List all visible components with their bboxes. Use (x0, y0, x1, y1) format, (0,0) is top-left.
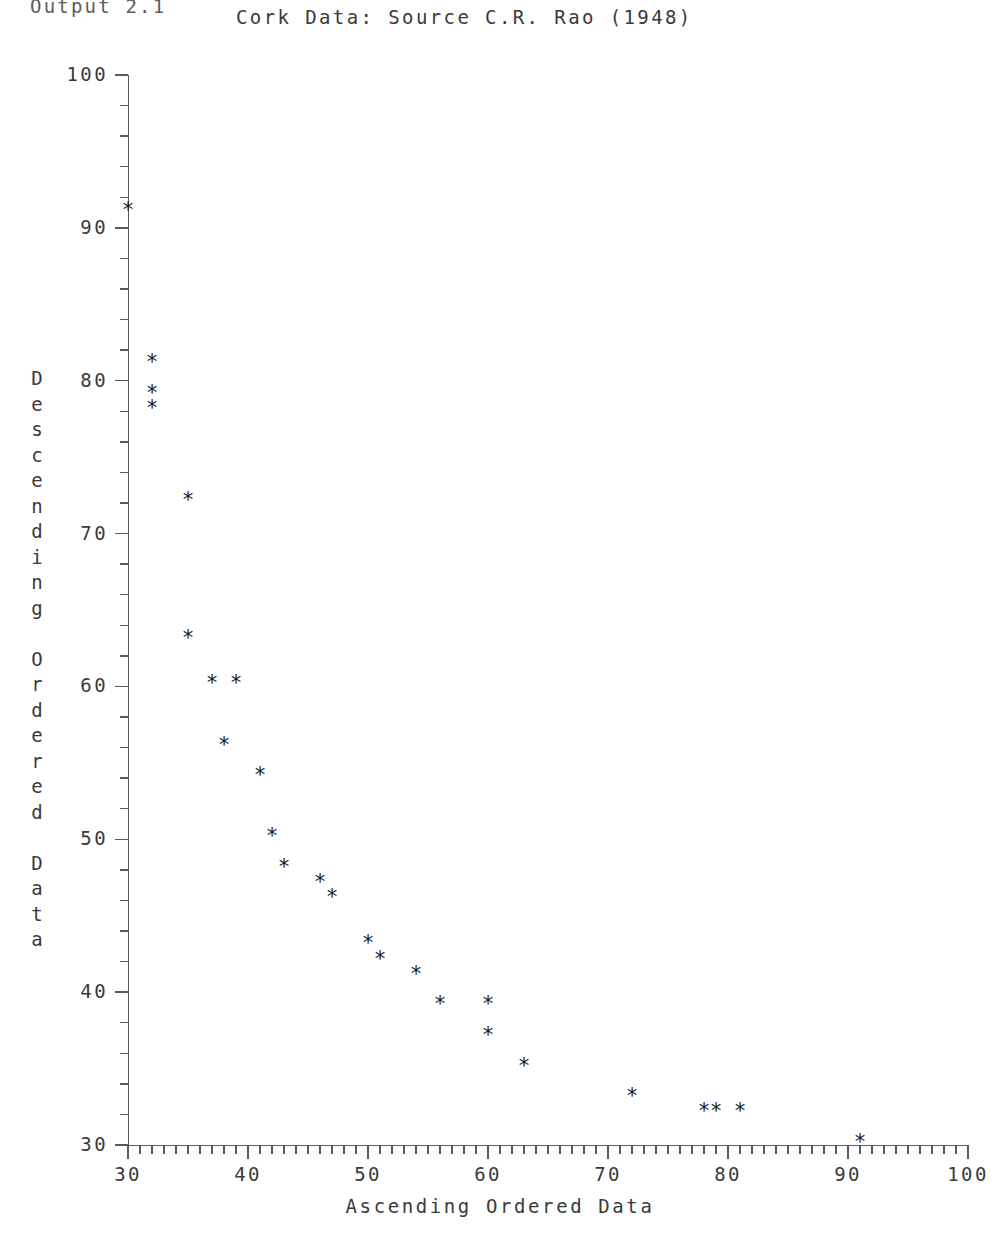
data-point-marker: * (709, 1102, 723, 1121)
y-tick-minor (120, 411, 128, 412)
x-tick-minor (175, 1146, 176, 1154)
x-tick-minor (787, 1146, 788, 1154)
x-tick-minor (523, 1146, 524, 1154)
x-tick-minor (835, 1146, 836, 1154)
x-tick-minor (955, 1146, 956, 1154)
data-point-marker: * (373, 950, 387, 969)
y-tick-minor (120, 625, 128, 626)
y-tick-label: 40 (38, 980, 108, 1002)
y-tick-minor (120, 472, 128, 473)
chart-page: Output 2.1 Cork Data: Source C.R. Rao (1… (0, 0, 1000, 1238)
x-tick-minor (163, 1146, 164, 1154)
data-point-marker: * (733, 1102, 747, 1121)
y-axis-line (128, 75, 129, 1146)
data-point-marker: * (181, 491, 195, 510)
x-tick-major (967, 1146, 968, 1159)
x-tick-minor (919, 1146, 920, 1154)
x-tick-minor (547, 1146, 548, 1154)
x-tick-minor (151, 1146, 152, 1154)
data-point-marker: * (145, 353, 159, 372)
y-tick-minor (120, 502, 128, 503)
x-tick-minor (379, 1146, 380, 1154)
x-tick-major (487, 1146, 488, 1159)
x-tick-minor (691, 1146, 692, 1154)
x-tick-minor (295, 1146, 296, 1154)
y-tick-major (115, 227, 128, 228)
x-tick-minor (331, 1146, 332, 1154)
y-tick-label: 60 (38, 674, 108, 696)
x-tick-minor (535, 1146, 536, 1154)
x-tick-minor (871, 1146, 872, 1154)
y-tick-minor (120, 961, 128, 962)
x-tick-minor (799, 1146, 800, 1154)
y-tick-minor (120, 1022, 128, 1023)
y-tick-minor (120, 1083, 128, 1084)
y-tick-label: 70 (38, 522, 108, 544)
x-tick-label: 100 (928, 1163, 1000, 1185)
x-tick-minor (139, 1146, 140, 1154)
x-tick-major (367, 1146, 368, 1159)
y-tick-label: 50 (38, 827, 108, 849)
data-point-marker: * (205, 674, 219, 693)
x-tick-label: 60 (448, 1163, 528, 1185)
x-tick-minor (883, 1146, 884, 1154)
y-tick-minor (120, 135, 128, 136)
data-point-marker: * (853, 1133, 867, 1152)
y-tick-minor (120, 747, 128, 748)
x-tick-minor (391, 1146, 392, 1154)
x-tick-minor (451, 1146, 452, 1154)
x-tick-minor (355, 1146, 356, 1154)
y-tick-minor (120, 869, 128, 870)
x-tick-minor (427, 1146, 428, 1154)
x-tick-minor (571, 1146, 572, 1154)
y-tick-minor (120, 319, 128, 320)
x-tick-minor (715, 1146, 716, 1154)
x-tick-minor (907, 1146, 908, 1154)
data-point-marker: * (253, 766, 267, 785)
y-tick-major (115, 380, 128, 381)
data-point-marker: * (265, 827, 279, 846)
data-point-marker: * (325, 888, 339, 907)
data-point-marker: * (277, 858, 291, 877)
x-tick-label: 90 (808, 1163, 888, 1185)
x-tick-minor (511, 1146, 512, 1154)
x-tick-minor (271, 1146, 272, 1154)
y-tick-minor (120, 808, 128, 809)
x-tick-minor (439, 1146, 440, 1154)
x-tick-minor (703, 1146, 704, 1154)
x-tick-minor (343, 1146, 344, 1154)
y-tick-minor (120, 777, 128, 778)
y-tick-minor (120, 930, 128, 931)
data-point-marker: * (433, 995, 447, 1014)
x-tick-minor (643, 1146, 644, 1154)
x-tick-major (127, 1146, 128, 1159)
y-tick-minor (120, 1114, 128, 1115)
x-tick-minor (595, 1146, 596, 1154)
x-tick-minor (283, 1146, 284, 1154)
y-tick-minor (120, 166, 128, 167)
y-tick-minor (120, 105, 128, 106)
x-tick-minor (187, 1146, 188, 1154)
y-tick-major (115, 533, 128, 534)
x-tick-minor (463, 1146, 464, 1154)
y-tick-major (115, 839, 128, 840)
x-tick-minor (943, 1146, 944, 1154)
x-tick-minor (199, 1146, 200, 1154)
x-tick-minor (667, 1146, 668, 1154)
x-tick-minor (751, 1146, 752, 1154)
y-tick-minor (120, 258, 128, 259)
x-tick-minor (619, 1146, 620, 1154)
x-tick-minor (259, 1146, 260, 1154)
x-tick-minor (235, 1146, 236, 1154)
x-tick-minor (403, 1146, 404, 1154)
y-tick-minor (120, 288, 128, 289)
data-point-marker: * (217, 736, 231, 755)
y-tick-major (115, 991, 128, 992)
y-tick-label: 100 (38, 63, 108, 85)
data-point-marker: * (121, 201, 135, 220)
data-point-marker: * (517, 1057, 531, 1076)
x-tick-minor (583, 1146, 584, 1154)
y-tick-major (115, 1144, 128, 1145)
data-point-marker: * (625, 1087, 639, 1106)
y-tick-minor (120, 349, 128, 350)
